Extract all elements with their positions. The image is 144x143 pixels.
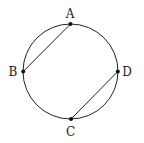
label-b: B: [9, 65, 18, 79]
circle: [23, 24, 118, 119]
point-d: [116, 70, 120, 74]
chord-cd: [71, 72, 118, 120]
label-d: D: [122, 65, 132, 79]
label-c: C: [66, 125, 75, 139]
point-a: [69, 22, 73, 26]
chord-ab: [23, 24, 70, 72]
label-a: A: [65, 7, 75, 21]
point-c: [69, 117, 73, 121]
circle-diagram: A B C D: [0, 0, 144, 143]
point-b: [21, 70, 25, 74]
